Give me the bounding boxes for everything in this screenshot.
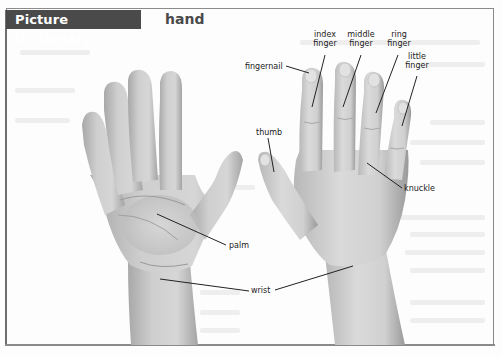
label-thumb: thumb	[256, 128, 282, 137]
label-line: middle	[344, 30, 378, 39]
left-hand-palm	[82, 70, 243, 345]
label-line: finger	[344, 39, 378, 48]
label-fingernail: fingernail	[245, 62, 283, 71]
label-line: finger	[402, 61, 432, 70]
label-palm: palm	[229, 241, 249, 250]
label-line: finger	[384, 39, 414, 48]
label-line: index	[310, 30, 340, 39]
label-ring-finger: ring finger	[384, 30, 414, 48]
label-wrist: wrist	[251, 286, 270, 295]
label-line: ring	[384, 30, 414, 39]
right-hand-back	[258, 62, 411, 345]
fingernail-leader	[286, 66, 309, 73]
label-little-finger: little finger	[402, 52, 432, 70]
label-middle-finger: middle finger	[344, 30, 378, 48]
label-index-finger: index finger	[310, 30, 340, 48]
dictionary-page: Picture Dictionary hand	[0, 0, 502, 356]
label-line: little	[402, 52, 432, 61]
label-knuckle: knuckle	[404, 184, 435, 193]
label-line: finger	[310, 39, 340, 48]
